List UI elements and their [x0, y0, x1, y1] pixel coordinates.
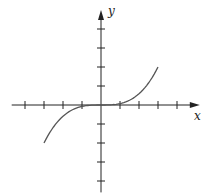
y-axis	[98, 10, 104, 192]
cubic-graph: x y	[0, 0, 207, 195]
y-axis-label: y	[107, 4, 115, 18]
x-axis-label: x	[194, 109, 201, 123]
